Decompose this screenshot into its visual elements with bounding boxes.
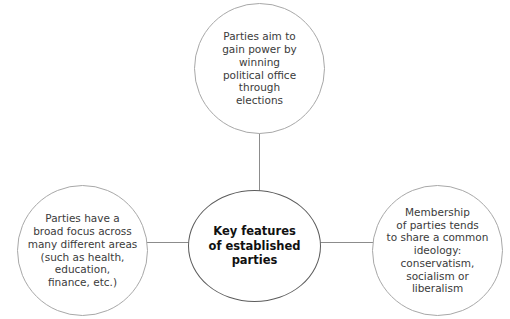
node-aim-for-power-label: Parties aim to gain power by winning pol…	[195, 30, 324, 107]
node-shared-ideology-label: Membership of parties tends to share a c…	[373, 206, 502, 296]
connector-top-to-center	[259, 130, 260, 194]
diagram-canvas: Parties aim to gain power by winning pol…	[0, 0, 510, 319]
node-broad-focus-label: Parties have a broad focus across many d…	[22, 212, 144, 289]
node-broad-focus: Parties have a broad focus across many d…	[17, 185, 148, 316]
node-shared-ideology: Membership of parties tends to share a c…	[372, 185, 503, 316]
connector-left-to-center	[142, 242, 194, 243]
node-key-features-label: Key features of established parties	[203, 224, 307, 269]
node-key-features: Key features of established parties	[188, 190, 321, 302]
node-aim-for-power: Parties aim to gain power by winning pol…	[194, 3, 325, 134]
connector-right-to-center	[316, 242, 378, 243]
